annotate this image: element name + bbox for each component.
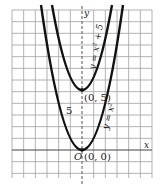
label-y: y [83,8,90,18]
label-origin: (0, 0) [84,151,111,162]
label-vertex-top: (0, 5) [84,92,111,103]
label-O: O [74,151,82,162]
graph: (0, 5) (0, 0) O 5 x y y = x² + 5 y = x² [0,0,160,188]
label-x: x [144,140,149,150]
label-shift-5: 5 [66,105,72,116]
